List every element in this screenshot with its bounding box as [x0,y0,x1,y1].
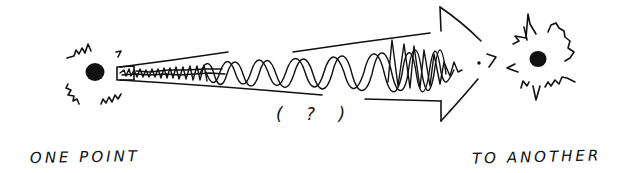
unknown-annotation: ( ? ) [276,104,354,124]
source-dot-icon [86,63,105,81]
target-label: TO ANOTHER [472,146,602,167]
target-burst-icon [507,14,575,100]
target-dot-icon [530,51,547,67]
source-burst-icon [66,44,121,104]
source-label: ONE POINT [30,147,140,167]
